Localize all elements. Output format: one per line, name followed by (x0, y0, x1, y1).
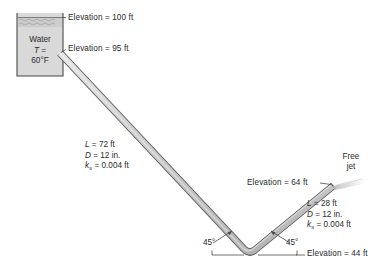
roughness-subscript-upper: s (89, 164, 92, 171)
temperature-symbol: T (34, 46, 39, 55)
tank-fluid-label: Water T = 60°F (17, 35, 63, 67)
diameter-value-lower: = 12 in. (315, 210, 342, 219)
water-surface-band (18, 17, 62, 27)
free-jet-line-1: Free (330, 152, 372, 162)
length-value-lower: = 28 ft (314, 199, 337, 208)
temperature-equals: = (41, 46, 46, 55)
pipe-upper-length: L = 72 ft (85, 140, 129, 151)
angle-label-left: 45° (203, 238, 215, 247)
roughness-value-upper: = 0.004 ft (94, 161, 128, 170)
pipe-lower-length: L = 28 ft (307, 199, 351, 210)
roughness-subscript-lower: s (311, 223, 314, 230)
diameter-value-upper: = 12 in. (93, 151, 120, 160)
figure-canvas: Water T = 60°F Elevation = 100 ft Elevat… (0, 0, 384, 272)
length-value-upper: = 72 ft (92, 140, 115, 149)
pipe-lower-diameter: D = 12 in. (307, 210, 351, 221)
angle-label-right: 45° (286, 238, 298, 247)
free-jet-label: Free jet (330, 152, 372, 173)
pipe-spec-upper: L = 72 ft D = 12 in. ks = 0.004 ft (85, 140, 129, 173)
pipe-lower-roughness: ks = 0.004 ft (307, 220, 351, 232)
diameter-symbol-lower: D (307, 210, 313, 219)
elevation-label-water-surface: Elevation = 100 ft (68, 13, 133, 23)
pipe-spec-lower: L = 28 ft D = 12 in. ks = 0.004 ft (307, 199, 351, 232)
roughness-value-lower: = 0.004 ft (316, 220, 350, 229)
elevation-label-pipe-outlet: Elevation = 64 ft (247, 178, 308, 188)
elevation-label-pipe-inlet: Elevation = 95 ft (68, 44, 129, 54)
free-jet-line-2: jet (330, 162, 372, 172)
elevation-label-elbow-bottom: Elevation = 44 ft (307, 249, 368, 259)
tank-temperature-symbol-row: T = (17, 46, 63, 57)
diameter-symbol-upper: D (85, 151, 91, 160)
length-symbol-upper: L (85, 140, 90, 149)
pipe-upper-diameter: D = 12 in. (85, 151, 129, 162)
tank-fluid-name: Water (17, 35, 63, 46)
length-symbol-lower: L (307, 199, 312, 208)
free-jet-spray (333, 178, 368, 190)
pipe-upper-roughness: ks = 0.004 ft (85, 161, 129, 173)
tank-temperature-value: 60°F (17, 56, 63, 67)
